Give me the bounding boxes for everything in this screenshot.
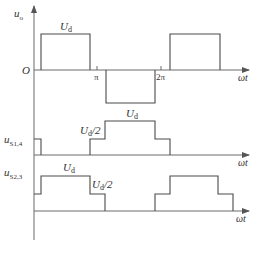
origin-label: O <box>22 64 30 76</box>
uo-negative-pulse <box>106 70 155 103</box>
plot-us14: uS1,4 Ud/2 Ud ωt <box>4 107 249 168</box>
uo-positive-pulse-1 <box>41 34 90 70</box>
xlabel-us14: ωt <box>238 157 248 168</box>
level-label-half: Ud/2 <box>80 124 101 138</box>
plot-uo: uo O Ud π 2π ωt <box>14 7 249 103</box>
ylabel-uo: uo <box>14 7 24 22</box>
us14-initial-step <box>34 139 41 155</box>
tick-label-pi: π <box>94 72 99 82</box>
uo-positive-pulse-2 <box>170 34 220 70</box>
waveform-diagram: uo O Ud π 2π ωt uS1,4 Ud/2 Ud ωt uS2,3 U… <box>0 0 259 256</box>
tick-label-2pi: 2π <box>156 72 166 82</box>
us14-stepped-pulse <box>90 121 170 155</box>
xlabel-us23: ωt <box>236 213 246 224</box>
us23-stepped-pulse-2 <box>155 176 233 211</box>
ylabel-us23: uS2,3 <box>4 166 23 181</box>
xlabel-uo: ωt <box>238 72 248 83</box>
level-label-full: Ud <box>63 161 75 175</box>
level-label-half: Ud/2 <box>92 178 113 192</box>
ylabel-us14: uS1,4 <box>4 133 23 148</box>
level-label-ud: Ud <box>60 20 72 34</box>
plot-us23: uS2,3 Ud Ud/2 ωt <box>4 161 249 224</box>
level-label-full: Ud <box>126 107 138 121</box>
